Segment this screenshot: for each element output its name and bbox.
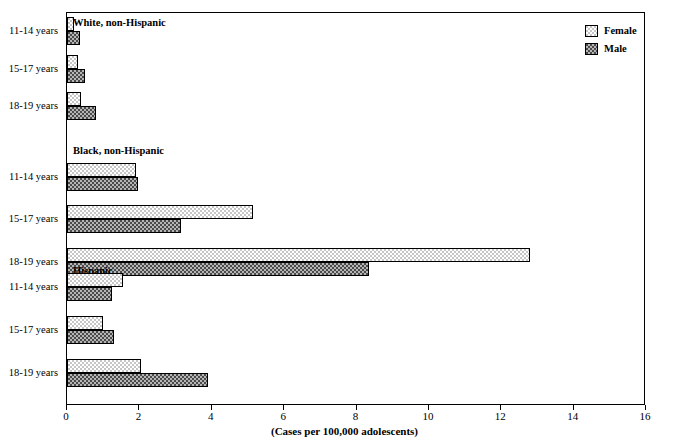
- group-header-1: White, non-Hispanic: [73, 17, 166, 28]
- legend-label-male: Male: [604, 43, 627, 54]
- bar-male: [67, 287, 112, 301]
- bar-male: [67, 31, 80, 45]
- y-axis-label: 15-17 years: [9, 213, 58, 224]
- y-axis-label: 11-14 years: [9, 171, 58, 182]
- y-axis-label: 15-17 years: [9, 63, 58, 74]
- tick-label: 10: [422, 410, 433, 422]
- y-axis-labels: 11-14 years15-17 years18-19 years11-14 y…: [0, 12, 62, 405]
- plot-area: White, non-HispanicBlack, non-HispanicHi…: [66, 12, 645, 405]
- tick-label: 16: [640, 410, 651, 422]
- bar-female: [67, 316, 103, 330]
- bar-female: [67, 55, 78, 69]
- x-axis-title: (Cases per 100,000 adolescents): [0, 425, 689, 437]
- bar-female: [67, 163, 136, 177]
- y-axis-label: 18-19 years: [9, 256, 58, 267]
- tick-label: 0: [63, 410, 69, 422]
- bar-male: [67, 69, 85, 83]
- legend-item-male: Male: [585, 41, 680, 56]
- bar-male: [67, 106, 96, 120]
- tick-label: 4: [208, 410, 214, 422]
- y-axis-label: 15-17 years: [9, 324, 58, 335]
- bar-male: [67, 330, 114, 344]
- legend-swatch-female: [585, 25, 598, 37]
- legend: Female Male: [585, 23, 680, 59]
- group-header-2: Black, non-Hispanic: [73, 145, 164, 156]
- tick-label: 12: [495, 410, 506, 422]
- y-axis-label: 11-14 years: [9, 25, 58, 36]
- bar-male: [67, 177, 138, 191]
- tick-label: 6: [280, 410, 286, 422]
- bar-female: [67, 273, 123, 287]
- tick-label: 14: [567, 410, 578, 422]
- y-axis-label: 18-19 years: [9, 100, 58, 111]
- bar-female: [67, 248, 530, 262]
- legend-item-female: Female: [585, 23, 680, 38]
- bar-male: [67, 219, 181, 233]
- y-axis-label: 18-19 years: [9, 367, 58, 378]
- tick-label: 2: [136, 410, 142, 422]
- bar-female: [67, 205, 253, 219]
- legend-label-female: Female: [604, 25, 637, 36]
- legend-swatch-male: [585, 43, 598, 55]
- y-axis-label: 11-14 years: [9, 281, 58, 292]
- bar-female: [67, 359, 141, 373]
- bar-female: [67, 17, 74, 31]
- bar-male: [67, 373, 208, 387]
- bar-chart: 11-14 years15-17 years18-19 years11-14 y…: [0, 0, 689, 445]
- bar-female: [67, 92, 81, 106]
- tick-label: 8: [353, 410, 359, 422]
